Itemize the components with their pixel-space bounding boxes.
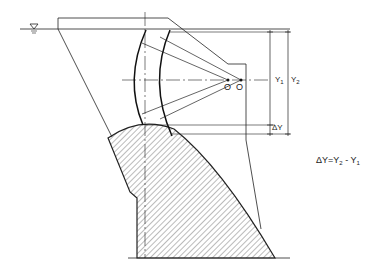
formula-prefix: ΔY=Y: [316, 155, 339, 165]
reference-lines: [145, 32, 290, 134]
water-level-icon: [30, 24, 38, 33]
formula-sub-b: 1: [356, 160, 359, 166]
dim-y2-label: Y2: [291, 76, 300, 85]
dim-y2-sub: 2: [296, 79, 299, 85]
formula-mid: - Y: [343, 155, 357, 165]
gate-diagram: [0, 0, 392, 273]
dim-delta-label: ΔY: [272, 124, 283, 132]
pivot-label-1: O: [224, 83, 231, 92]
pivot-label-2: O: [236, 83, 243, 92]
gate-arc-2: [159, 30, 172, 136]
dim-y1-sub: 1: [280, 79, 283, 85]
formula-label: ΔY=Y2 - Y1: [316, 156, 360, 166]
spillway-crest: [108, 124, 275, 258]
dim-y1-label: Y1: [275, 76, 284, 85]
gate-arms: [142, 37, 241, 119]
